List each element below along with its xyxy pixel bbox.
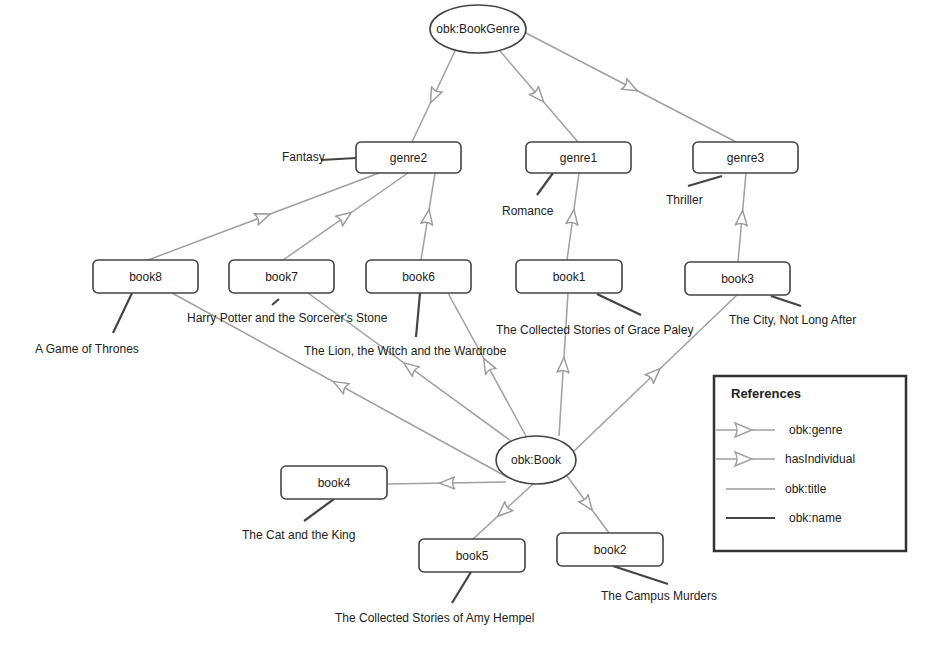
legend-item-label: obk:title <box>785 482 827 496</box>
literal-label: Fantasy <box>282 150 325 164</box>
class-nodes: obk:BookGenreobk:Book <box>430 5 576 484</box>
literal-label: Thriller <box>666 193 703 207</box>
genre-edge <box>421 173 435 260</box>
literal-label: The Lion, the Witch and the Wardrobe <box>304 344 507 358</box>
has-individual-edge <box>473 484 533 539</box>
name-edge <box>771 296 801 306</box>
arrowhead-icon <box>434 89 437 96</box>
legend-item-label: obk:genre <box>789 423 843 437</box>
individual-label: genre2 <box>390 151 428 165</box>
literal-label: The City, Not Long After <box>729 313 856 327</box>
name-edge <box>272 299 279 305</box>
legend-item-hasindividual: hasIndividual <box>716 452 855 466</box>
individual-label: book8 <box>129 270 162 284</box>
has-individual-edge <box>559 293 568 436</box>
ontology-graph: obk:BookGenreobk:Book genre2genre1genre3… <box>0 0 940 661</box>
title-edge <box>688 176 722 186</box>
title-edges <box>537 173 722 195</box>
genre-edge <box>526 33 736 142</box>
has-individual-edge <box>567 476 609 533</box>
individual-label: book6 <box>402 270 435 284</box>
class-label: obk:Book <box>511 453 562 467</box>
arrowhead-icon <box>741 218 742 226</box>
legend-references: References obk:genrehasIndividualobk:tit… <box>714 376 906 551</box>
arrowhead-icon <box>624 84 631 88</box>
class-node-book[interactable]: obk:Book <box>496 436 576 484</box>
individual-label: book2 <box>594 543 627 557</box>
individual-label: book1 <box>553 270 586 284</box>
has-individual-edge <box>448 293 526 436</box>
individual-node-genre2[interactable]: genre2 <box>356 142 461 173</box>
individual-node-book5[interactable]: book5 <box>419 539 525 572</box>
arrowhead-icon <box>410 367 416 372</box>
has-individual-edge <box>573 295 737 452</box>
literal-label: A Game of Thrones <box>35 342 139 356</box>
name-edge <box>416 293 420 337</box>
individual-label: book3 <box>721 272 754 286</box>
individual-node-book6[interactable]: book6 <box>366 260 471 293</box>
arrowhead-icon <box>534 90 539 96</box>
individual-label: genre1 <box>560 151 598 165</box>
individual-label: book5 <box>456 549 489 563</box>
literal-label: The Campus Murders <box>601 589 717 603</box>
individual-label: genre3 <box>727 151 765 165</box>
arrowhead-icon <box>572 217 573 225</box>
individual-node-genre1[interactable]: genre1 <box>526 142 631 173</box>
name-edge <box>597 294 641 315</box>
literal-label: The Collected Stories of Amy Hempel <box>335 611 534 625</box>
arrowhead-icon <box>256 217 263 220</box>
class-label: obk:BookGenre <box>436 22 520 36</box>
legend-title: References <box>731 386 801 401</box>
genre-edge <box>412 51 455 142</box>
literal-label: Harry Potter and the Sorcerer's Stone <box>187 311 388 325</box>
literal-label: Romance <box>502 204 554 218</box>
literal-label: The Cat and the King <box>242 528 355 542</box>
individual-node-book4[interactable]: book4 <box>281 466 387 499</box>
individual-node-book1[interactable]: book1 <box>516 260 622 293</box>
arrowhead-icon <box>503 506 509 511</box>
arrowhead-icon <box>487 365 491 372</box>
name-edge <box>452 572 471 603</box>
arrowhead-icon <box>583 498 588 504</box>
name-edge <box>321 158 356 160</box>
arrowhead-icon <box>340 385 347 389</box>
individual-node-book3[interactable]: book3 <box>685 262 790 295</box>
individual-node-book8[interactable]: book8 <box>93 260 198 293</box>
name-edges <box>113 158 801 603</box>
individual-node-genre3[interactable]: genre3 <box>693 142 798 173</box>
name-edge <box>613 566 668 584</box>
genre-edge <box>567 173 579 260</box>
title-edge <box>537 173 553 195</box>
legend-item-label: hasIndividual <box>785 452 855 466</box>
legend-item-label: obk:name <box>789 511 842 525</box>
name-edge <box>113 293 132 333</box>
literal-label: The Collected Stories of Grace Paley <box>496 323 693 337</box>
individual-node-book7[interactable]: book7 <box>229 260 334 293</box>
class-node-bookgenre[interactable]: obk:BookGenre <box>430 5 526 53</box>
genre-edge <box>500 51 578 142</box>
has-individual-edge <box>387 482 506 484</box>
arrowhead-icon <box>339 217 346 222</box>
arrowhead-icon <box>649 374 655 380</box>
individual-node-book2[interactable]: book2 <box>557 533 663 566</box>
genre-edge <box>738 173 746 262</box>
name-edge <box>304 499 334 521</box>
individual-label: book7 <box>265 270 298 284</box>
arrowhead-icon <box>427 217 428 225</box>
individual-label: book4 <box>318 476 351 490</box>
arrowhead-icon <box>563 365 564 373</box>
